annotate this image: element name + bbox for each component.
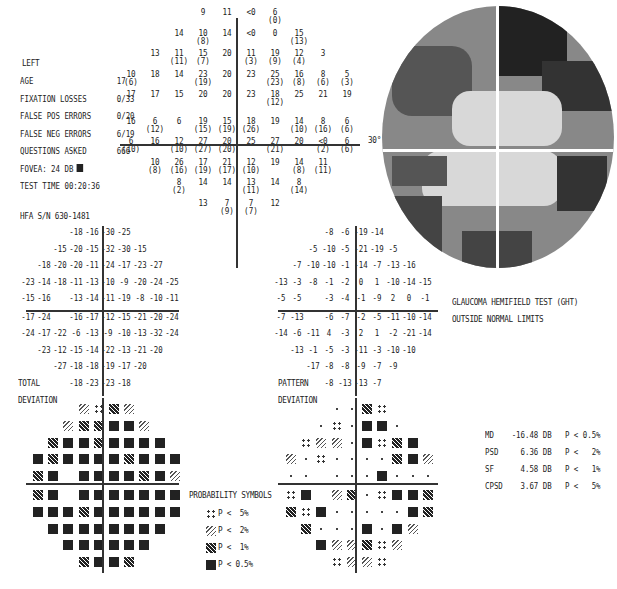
prob-symbol-blk-icon — [408, 438, 418, 448]
deviation-value: -10 — [322, 260, 337, 270]
prob-symbols-title: PROBABILITY SYMBOLS — [189, 490, 272, 501]
deviation-value: -20 — [53, 260, 68, 270]
threshold-cell: 20 — [192, 90, 214, 98]
deviation-value: -15 — [418, 277, 433, 287]
pattern-deviation-label: DEVIATION — [278, 395, 317, 406]
deviation-value: -9 — [386, 361, 401, 371]
deviation-value: -10 — [386, 345, 401, 355]
prob-symbol-p1-icon — [109, 404, 119, 414]
prob-symbol-blk-icon — [139, 540, 149, 550]
legend-blk-icon — [206, 560, 216, 570]
prob-symbol-blk-icon — [170, 454, 180, 464]
threshold-cell: 21 — [312, 90, 334, 98]
deviation-value: -14 — [274, 328, 289, 338]
deviation-value: -14 — [85, 293, 100, 303]
deviation-value: -3 — [290, 277, 305, 287]
prob-symbol-blk-icon — [63, 507, 73, 517]
prob-symbol-blk-icon — [33, 454, 43, 464]
threshold-cell: 5(3) — [336, 70, 358, 86]
deviation-value: -15 — [53, 244, 68, 254]
threshold-cell: 0 — [264, 29, 286, 37]
threshold-cell: 14(10) — [288, 117, 310, 133]
prob-symbol-p2-icon — [79, 404, 89, 414]
deviation-value: -8 — [322, 378, 337, 388]
threshold-cell: 20 — [216, 90, 238, 98]
global-index-cpsd: CPSD 3.67 DB P < 5% — [485, 481, 601, 491]
threshold-cell: 23 — [240, 70, 262, 78]
prob-symbol-blk-icon — [109, 421, 119, 431]
deviation-value: -11 — [69, 277, 84, 287]
total-deviation-label: DEVIATION — [18, 395, 57, 406]
threshold-cell: 14 — [168, 70, 190, 78]
prob-symbol-blk-icon — [48, 471, 58, 481]
deviation-value: -24 — [149, 277, 164, 287]
prob-symbol-blk-icon — [362, 524, 372, 534]
threshold-cell: 14(8) — [288, 158, 310, 174]
prob-symbol-blk-icon — [408, 507, 418, 517]
deviation-value: -23 — [21, 277, 36, 287]
prob-symbol-p2-icon — [286, 454, 296, 464]
deviation-value: -16 — [69, 312, 84, 322]
prob-symbol-dot-icon — [316, 421, 326, 431]
deviation-value: -19 — [370, 244, 385, 254]
global-index-psd: PSD 6.36 DB P < 2% — [485, 447, 601, 457]
deviation-value: -13 — [338, 378, 353, 388]
prob-symbol-blk-icon — [170, 507, 180, 517]
deviation-value: -17 — [37, 328, 52, 338]
legend-label: P < 0.5% — [218, 559, 253, 570]
prob-symbol-dot-icon — [377, 507, 387, 517]
threshold-cell: 7(9) — [216, 199, 238, 215]
threshold-cell: 26(16) — [168, 158, 190, 174]
threshold-cell: 8(14) — [288, 178, 310, 194]
threshold-cell: 16(8) — [288, 70, 310, 86]
prob-symbol-p1-icon — [33, 490, 43, 500]
prob-symbol-blk-icon — [109, 438, 119, 448]
prob-symbol-blk-icon — [109, 490, 119, 500]
deviation-value: -13 — [133, 328, 148, 338]
deviation-value: -24 — [21, 328, 36, 338]
deviation-value: -18 — [117, 378, 132, 388]
threshold-cell: 14 — [216, 178, 238, 186]
header-row: FIXATION LOSSES0/33 — [20, 94, 135, 104]
deviation-value: -13 — [274, 277, 289, 287]
threshold-cell: 14 — [168, 29, 190, 37]
deviation-value: -6 — [290, 328, 305, 338]
deviation-value: -5 — [322, 345, 337, 355]
prob-symbol-blk-icon — [109, 471, 119, 481]
deviation-value: -6 — [322, 312, 337, 322]
deviation-value: -20 — [149, 345, 164, 355]
threshold-cell: 18 — [144, 70, 166, 78]
prob-symbol-blk-icon — [155, 454, 165, 464]
prob-symbol-p2-icon — [392, 540, 402, 550]
deviation-value: -17 — [85, 312, 100, 322]
prob-symbol-p5-icon — [332, 421, 342, 431]
prob-symbol-dot-icon — [377, 454, 387, 464]
legend-p2-icon — [206, 526, 216, 536]
deviation-value: -1 — [418, 293, 433, 303]
deviation-value: -17 — [21, 312, 36, 322]
prob-symbol-p1-icon — [124, 557, 134, 567]
prob-symbol-blk-icon — [109, 557, 119, 567]
prob-symbol-dot-icon — [362, 490, 372, 500]
header-row: TEST TIME 00:20:36 — [20, 181, 100, 191]
prob-symbol-p1-icon — [33, 471, 43, 481]
prob-symbol-dot-icon — [286, 471, 296, 481]
deviation-value: -17 — [117, 361, 132, 371]
deviation-value: -1 — [338, 260, 353, 270]
deviation-value: -18 — [69, 227, 84, 237]
prob-symbol-blk-icon — [109, 524, 119, 534]
deviation-value: -5 — [274, 293, 289, 303]
prob-symbol-dot-icon — [362, 507, 372, 517]
deviation-value: 1 — [370, 328, 385, 338]
prob-symbol-blk-icon — [63, 524, 73, 534]
threshold-cell: 17 — [120, 90, 142, 98]
prob-symbol-blk-icon — [124, 540, 134, 550]
prob-symbol-blk-icon — [155, 524, 165, 534]
threshold-cell: 20 — [216, 70, 238, 78]
deviation-value: -7 — [370, 260, 385, 270]
prob-symbol-dot-icon — [392, 507, 402, 517]
header-row: FOVEA: 24 DB — [20, 164, 83, 174]
deviation-value: -22 — [53, 328, 68, 338]
deviation-value: -2 — [338, 277, 353, 287]
deviation-value: -27 — [53, 361, 68, 371]
